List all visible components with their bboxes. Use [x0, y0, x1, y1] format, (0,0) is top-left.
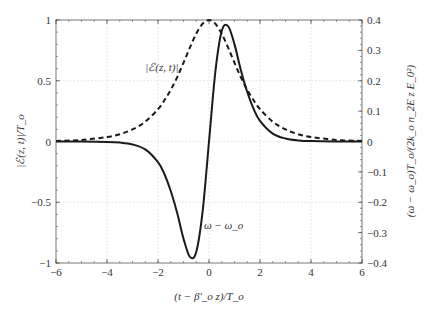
y-tick-label-left: 0.5	[37, 75, 51, 87]
y-axis-label-right: (ω − ω_o)T_o/(2k_o n_2E z E_0²)	[404, 64, 417, 217]
y-tick-label-left: 1	[46, 14, 52, 26]
envelope-annotation: |ℰ(z, t)|	[145, 61, 178, 74]
x-tick-label: −6	[50, 266, 62, 278]
y-tick-label-right: 0.2	[367, 75, 381, 87]
y-tick-label-left: 0	[46, 136, 52, 148]
x-tick-label: −2	[152, 266, 164, 278]
y-tick-label-right: −0.1	[367, 166, 387, 178]
x-tick-label: 0	[206, 266, 212, 278]
y-tick-label-right: −0.4	[367, 257, 387, 269]
x-tick-label: 2	[257, 266, 263, 278]
y-tick-label-right: −0.2	[367, 196, 387, 208]
y-tick-label-right: 0.3	[367, 44, 381, 56]
y-tick-label-right: −0.3	[367, 227, 387, 239]
chirp-annotation: ω − ω_o	[204, 219, 244, 231]
y-tick-label-right: 0	[367, 136, 373, 148]
y-tick-label-left: −1	[39, 257, 51, 269]
x-axis-label: (t − β′_o z)/T_o	[174, 290, 244, 303]
x-tick-label: −4	[101, 266, 113, 278]
y-tick-labels-right: −0.4−0.3−0.2−0.100.10.20.30.4	[367, 14, 387, 269]
x-tick-label: 4	[308, 266, 314, 278]
chart: −6−4−20246 −1−0.500.51 −0.4−0.3−0.2−0.10…	[0, 0, 427, 309]
y-tick-labels-left: −1−0.500.51	[31, 14, 51, 269]
x-tick-labels: −6−4−20246	[50, 266, 365, 278]
y-tick-label-right: 0.1	[367, 105, 381, 117]
y-tick-label-right: 0.4	[367, 14, 381, 26]
x-tick-label: 6	[359, 266, 365, 278]
y-tick-label-left: −0.5	[31, 196, 51, 208]
y-axis-label-left: |ℰ(z, t)|/T_o	[14, 114, 27, 168]
